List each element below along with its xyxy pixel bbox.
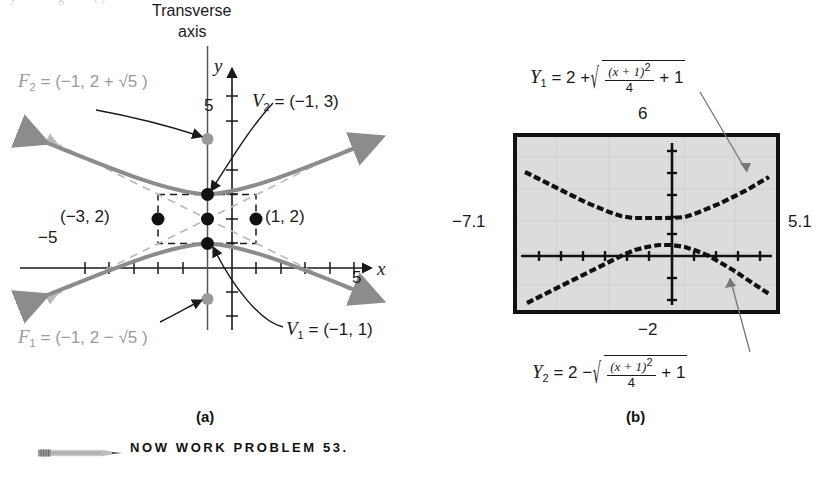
y-tick-label-5: 5 <box>204 96 213 116</box>
window-xmin-label: −7.1 <box>452 212 486 232</box>
vertex-upper-point <box>201 188 214 201</box>
now-work-problem-text: NOW WORK PROBLEM 53. <box>130 440 349 455</box>
transverse-axis-label-line2: axis <box>178 23 206 41</box>
calculator-plot-svg <box>517 137 776 310</box>
vertex-lower-label: V1 = (−1, 1) <box>286 318 373 341</box>
y2-radical: (x + 1)2 4 + 1 <box>592 355 687 390</box>
window-ymax-label: 6 <box>638 104 647 124</box>
window-xmax-label: 5.1 <box>788 212 812 232</box>
vertex-upper-label: V2 = (−1, 3) <box>252 90 339 113</box>
point-label-right: (1, 2) <box>265 207 305 227</box>
y1-equation: Y1 = 2 + (x + 1)2 4 + 1 <box>530 60 685 95</box>
y-axis-label: y <box>214 55 222 77</box>
x-axis-label: x <box>377 258 385 280</box>
y2-equation: Y2 = 2 − (x + 1)2 4 + 1 <box>532 355 687 390</box>
x-tick-label-5: 5 <box>352 268 361 288</box>
y1-radical: (x + 1)2 4 + 1 <box>590 60 685 95</box>
focus-lower-label: F1 = (−1, 2 − √5 ) <box>18 326 148 349</box>
center-point <box>201 213 214 226</box>
window-ymin-label: −2 <box>638 320 657 340</box>
pencil-icon <box>38 446 122 460</box>
focus-lower-point <box>202 293 214 305</box>
y1-fraction: (x + 1)2 4 <box>605 61 653 95</box>
transverse-axis-label-line1: Transverse <box>152 2 231 20</box>
point-label-left: (−3, 2) <box>60 207 110 227</box>
y2-fraction: (x + 1)2 4 <box>607 356 655 390</box>
x-tick-label-neg5: −5 <box>38 228 57 248</box>
panel-b-caption: (b) <box>626 408 645 425</box>
now-work-footer: NOW WORK PROBLEM 53. <box>0 432 838 478</box>
rectangle-right-midpoint <box>250 213 263 226</box>
vertex-lower-point <box>201 237 214 250</box>
focus-upper-point <box>202 133 214 145</box>
focus-upper-leader <box>96 110 200 136</box>
calculator-screen <box>513 133 780 314</box>
figure-panel-b: Y1 = 2 + (x + 1)2 4 + 1 6 −2 −7.1 5.1 <box>420 0 838 400</box>
vertex-upper-leader <box>212 103 273 189</box>
calc-upper-branch <box>525 172 769 218</box>
focus-upper-label: F2 = (−1, 2 + √5 ) <box>18 70 148 93</box>
vertex-lower-leader <box>214 249 283 327</box>
focus-lower-leader <box>160 301 200 322</box>
figure-panel-a: Transverse axis y x 5 −5 5 F2 = (−1, 2 +… <box>0 0 420 400</box>
rectangle-left-midpoint <box>152 213 165 226</box>
panel-a-caption: (a) <box>196 408 214 425</box>
